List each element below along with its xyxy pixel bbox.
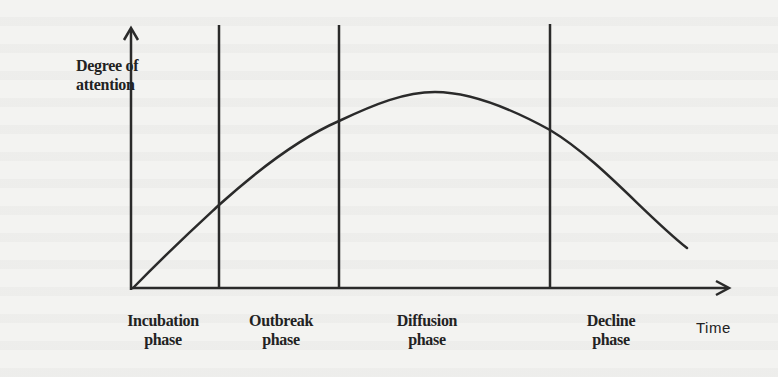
phase-label-line1: Decline (556, 311, 666, 330)
y-axis-label-line1: Degree of (76, 56, 138, 75)
phase-label-incubation: Incubation phase (108, 311, 218, 349)
phase-label-line1: Outbreak (226, 311, 336, 330)
x-axis-label: Time (696, 318, 731, 337)
phase-label-line1: Incubation (108, 311, 218, 330)
phase-label-line2: phase (556, 330, 666, 349)
attention-curve (133, 92, 687, 288)
phase-label-outbreak: Outbreak phase (226, 311, 336, 349)
phase-label-diffusion: Diffusion phase (372, 311, 482, 349)
phase-label-line2: phase (226, 330, 336, 349)
phase-label-line1: Diffusion (372, 311, 482, 330)
y-axis-label: Degree of attention (76, 56, 138, 94)
phase-label-line2: phase (372, 330, 482, 349)
y-axis-label-line2: attention (76, 75, 138, 94)
phase-label-decline: Decline phase (556, 311, 666, 349)
phase-label-line2: phase (108, 330, 218, 349)
